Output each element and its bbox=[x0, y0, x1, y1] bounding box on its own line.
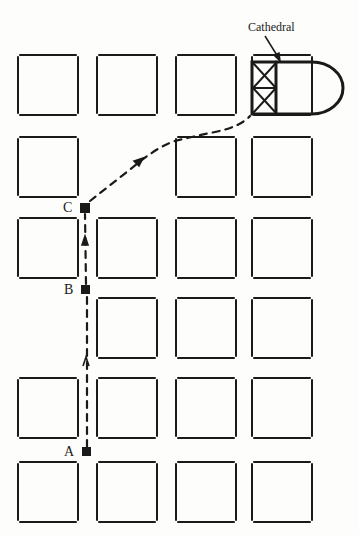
point-b-label: B bbox=[64, 282, 73, 298]
cathedral-label: Cathedral bbox=[248, 20, 295, 35]
point-a-label: A bbox=[64, 444, 74, 460]
point-c-marker bbox=[80, 203, 90, 213]
city-map-diagram bbox=[0, 0, 359, 535]
arrow-up-icon bbox=[82, 236, 88, 245]
point-b-marker bbox=[81, 285, 90, 294]
route-path bbox=[85, 116, 250, 447]
city-blocks bbox=[18, 55, 312, 522]
cathedral-shape bbox=[252, 62, 343, 114]
cathedral-callout-arrow bbox=[265, 36, 280, 61]
point-a-marker bbox=[82, 447, 91, 456]
point-c-label: C bbox=[63, 200, 72, 216]
route-direction-arrows bbox=[82, 158, 143, 366]
